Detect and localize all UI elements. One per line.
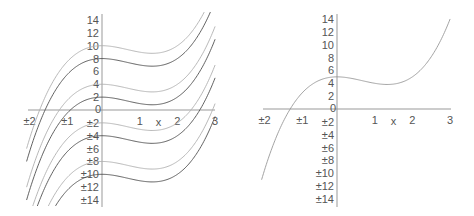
y-tick-label: ±10 xyxy=(316,167,334,179)
y-tick-label: ±12 xyxy=(316,180,334,192)
x-tick-label: 1 xyxy=(372,114,378,126)
y-tick-label: ±2 xyxy=(322,116,334,128)
x-tick-label: 0 xyxy=(330,102,336,114)
x-tick-label: ±2 xyxy=(259,114,271,126)
y-tick-label: 12 xyxy=(322,26,334,38)
chart-figure: ±2±10123x1412108642±2±4±6±8±10±12±14 ±2±… xyxy=(0,0,474,216)
curve-c5 xyxy=(262,19,451,180)
y-tick-label: 10 xyxy=(322,39,334,51)
x-tick-label: ±1 xyxy=(296,114,308,126)
chart-particular-curve: ±2±10123x1412108642±2±4±6±8±10±12±14 xyxy=(0,0,474,216)
y-tick-label: 6 xyxy=(328,64,334,76)
y-tick-label: 8 xyxy=(328,52,334,64)
y-tick-label: 4 xyxy=(328,77,334,89)
x-tick-label: 3 xyxy=(447,114,453,126)
x-axis-label: x xyxy=(391,115,397,127)
y-tick-label: 2 xyxy=(328,90,334,102)
y-tick-label: 14 xyxy=(322,13,334,25)
y-tick-label: ±8 xyxy=(322,154,334,166)
y-tick-label: ±6 xyxy=(322,142,334,154)
x-tick-label: 2 xyxy=(409,114,415,126)
y-tick-label: ±14 xyxy=(316,193,334,205)
y-tick-label: ±4 xyxy=(322,129,334,141)
